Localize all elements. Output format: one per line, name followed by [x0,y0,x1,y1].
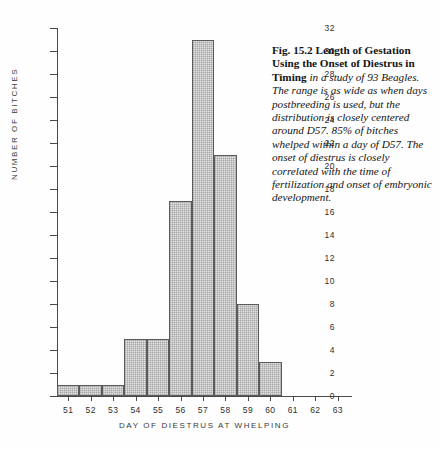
y-tick [50,212,57,213]
bar [259,362,281,397]
x-tick [338,396,339,401]
y-tick-label: 4 [330,345,335,355]
x-tick [293,396,294,401]
x-tick-label: 61 [288,405,298,415]
bar [169,201,191,397]
y-tick [50,258,57,259]
x-axis-line [57,396,352,397]
histogram-chart: NUMBER OF BITCHES 0246810121416182022242… [0,0,265,449]
x-tick-label: 56 [175,405,185,415]
bar [102,385,124,397]
bar [124,339,146,397]
x-tick [248,396,249,401]
y-tick [50,350,57,351]
x-tick-label: 57 [198,405,208,415]
y-tick [50,166,57,167]
y-tick-label: 32 [325,23,335,33]
y-tick-label: 2 [330,368,335,378]
y-tick-label: 14 [325,230,335,240]
y-tick-label: 12 [325,253,335,263]
x-axis-title: DAY OF DIESTRUS AT WHELPING [57,421,352,430]
y-tick-label: 6 [330,322,335,332]
y-tick [50,189,57,190]
x-tick-label: 59 [243,405,253,415]
x-tick-label: 63 [333,405,343,415]
y-tick [50,97,57,98]
figure-caption: Fig. 15.2 Length of Gestation Using the … [272,44,432,205]
x-tick [158,396,159,401]
x-tick-label: 51 [63,405,73,415]
y-tick [50,281,57,282]
x-tick [225,396,226,401]
bar [57,385,79,397]
y-axis-title: NUMBER OF BITCHES [10,20,19,180]
x-tick-label: 62 [310,405,320,415]
y-tick-label: 16 [325,207,335,217]
x-tick [270,396,271,401]
y-tick [50,327,57,328]
x-tick-label: 58 [220,405,230,415]
x-tick [203,396,204,401]
x-tick [68,396,69,401]
y-tick-label: 8 [330,299,335,309]
bar [192,40,214,397]
caption-body: in a study of 93 Beagles. The range is a… [272,71,432,204]
y-tick-label: 0 [330,391,335,401]
x-tick [136,396,137,401]
y-tick [50,143,57,144]
x-tick [181,396,182,401]
y-tick-label: 10 [325,276,335,286]
figure-15-2: NUMBER OF BITCHES 0246810121416182022242… [0,0,441,449]
y-tick [50,396,57,397]
x-tick [91,396,92,401]
y-tick [50,51,57,52]
bar [147,339,169,397]
x-tick-label: 60 [265,405,275,415]
y-tick [50,28,57,29]
bar [237,304,259,396]
x-tick-label: 54 [130,405,140,415]
y-tick [50,74,57,75]
x-tick-label: 52 [86,405,96,415]
y-tick [50,235,57,236]
x-tick-label: 53 [108,405,118,415]
y-tick [50,304,57,305]
bar [79,385,101,397]
x-tick-label: 55 [153,405,163,415]
x-tick [113,396,114,401]
y-tick [50,120,57,121]
y-tick [50,373,57,374]
x-tick [315,396,316,401]
bar [214,155,236,397]
